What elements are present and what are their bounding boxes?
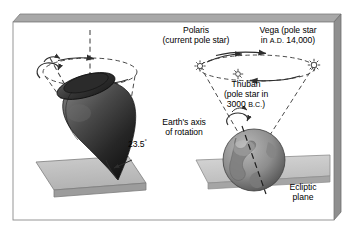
vega-epoch: in A.D. 14,000) — [261, 35, 315, 45]
vega-era-abbr: A.D. — [270, 37, 284, 45]
thuban-subtitle: (pole star in — [224, 89, 268, 99]
thuban-era-abbr: B.C. — [248, 101, 262, 109]
label-vega: Vega (pole star in A.D. 14,000) — [238, 26, 338, 47]
thuban-epoch: 3000 B.C.) — [227, 99, 265, 109]
ecliptic-line2: plane — [293, 192, 314, 202]
label-ecliptic-plane: Ecliptic plane — [277, 183, 329, 203]
figure-panel: Polaris (current pole star) Vega (pole s… — [0, 0, 348, 234]
earth-axis-line2: of rotation — [165, 127, 203, 137]
vega-title: Vega (pole star — [259, 25, 316, 35]
degree-symbol: ° — [145, 138, 147, 144]
label-polaris: Polaris (current pole star) — [160, 26, 232, 46]
label-tilt-angle: 23.5° — [128, 137, 168, 150]
polaris-subtitle: (current pole star) — [163, 35, 230, 45]
ecliptic-line1: Ecliptic — [290, 182, 317, 192]
label-thuban: Thuban (pole star in 3000 B.C.) — [209, 80, 283, 110]
polaris-title: Polaris — [183, 25, 209, 35]
label-earth-axis: Earth's axis of rotation — [146, 118, 222, 138]
earth-axis-line1: Earth's axis — [162, 117, 206, 127]
tilt-angle-value: 23.5 — [128, 139, 145, 149]
thuban-title: Thuban — [232, 79, 261, 89]
